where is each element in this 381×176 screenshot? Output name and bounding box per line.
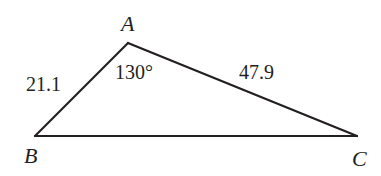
side-ac-length-label: 47.9	[239, 61, 274, 83]
side-ab-length-label: 21.1	[26, 73, 61, 95]
side-ac	[128, 43, 357, 136]
vertex-label-b: B	[24, 143, 37, 168]
triangle-diagram: A B C 21.1 130° 47.9	[0, 0, 381, 176]
vertex-label-c: C	[352, 146, 367, 171]
vertex-label-a: A	[119, 11, 135, 36]
angle-a-label: 130°	[115, 61, 153, 83]
